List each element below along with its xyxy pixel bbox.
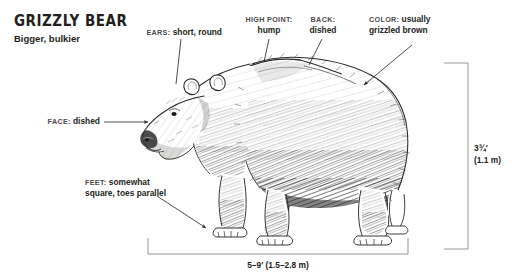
callout-ears-value: short, round (173, 27, 222, 37)
callout-face-value: dished (73, 116, 100, 126)
callout-feet-value-1: somewhat (109, 177, 150, 187)
callout-back-key: BACK: (292, 14, 354, 25)
leader-line-high-point (264, 39, 269, 62)
callout-feet-key: FEET: (85, 178, 107, 187)
infographic-canvas: GRIZZLY BEAR Bigger, bulkier EARS: short… (0, 0, 518, 277)
callout-face: FACE: dished (10, 116, 100, 127)
length-dimension-label: 5–9′ (1.5–2.8 m) (218, 259, 338, 271)
height-dimension-metric: (1.1 m) (474, 154, 518, 166)
callout-feet-value-2: square, toes parallel (85, 188, 209, 199)
callout-back-value: dished (292, 25, 354, 36)
length-dimension-bracket (148, 238, 408, 254)
callout-color-value-2: grizzled brown (369, 25, 479, 36)
title-block: GRIZZLY BEAR Bigger, bulkier (14, 14, 127, 44)
leader-line-ears (176, 39, 181, 84)
page-title: GRIZZLY BEAR (14, 14, 127, 30)
leader-line-back (309, 39, 322, 65)
callout-color-key: COLOR: (369, 15, 399, 24)
callout-back: BACK: dished (292, 14, 354, 36)
callout-color: COLOR: usually grizzled brown (369, 14, 479, 36)
height-dimension-bracket (444, 63, 468, 249)
height-dimension-value: 3¾′ (474, 142, 518, 154)
callout-color-value-1: usually (402, 14, 431, 24)
leader-arrow-color (364, 45, 412, 85)
callout-feet: FEET: somewhat square, toes parallel (85, 177, 209, 199)
height-dimension-label: 3¾′ (1.1 m) (474, 142, 518, 166)
callout-ears: EARS: short, round (118, 27, 222, 38)
callout-face-key: FACE: (48, 117, 71, 126)
callout-ears-key: EARS: (146, 28, 170, 37)
page-subtitle: Bigger, bulkier (14, 33, 127, 44)
leader-arrow-feet (157, 196, 206, 228)
